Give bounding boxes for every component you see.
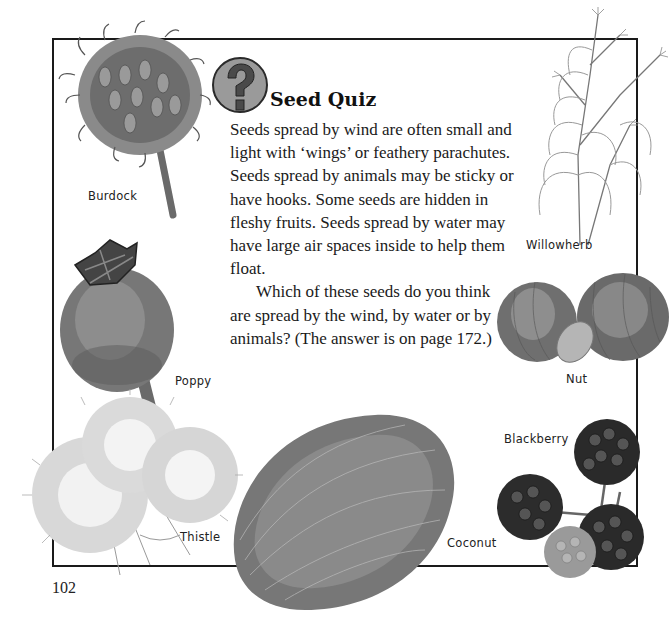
page-number: 102 xyxy=(52,579,76,597)
thistle-label: Thistle xyxy=(180,530,220,544)
poppy-illustration xyxy=(55,235,185,415)
paragraph-intro: Seeds spread by wind are often small and… xyxy=(230,118,515,280)
nut-label: Nut xyxy=(566,372,587,386)
blackberry-label: Blackberry xyxy=(504,432,569,446)
paragraph-question: Which of these seeds do you think are sp… xyxy=(230,280,515,350)
nut-illustration xyxy=(495,272,670,367)
body-text: Seeds spread by wind are often small and… xyxy=(230,118,515,350)
willowherb-label: Willowherb xyxy=(526,238,593,252)
page-title: Seed Quiz xyxy=(270,88,376,110)
coconut-illustration xyxy=(225,410,460,615)
thistle-illustration xyxy=(20,395,240,585)
burdock-label: Burdock xyxy=(88,189,137,203)
poppy-label: Poppy xyxy=(175,374,211,388)
willowherb-illustration xyxy=(520,5,670,250)
